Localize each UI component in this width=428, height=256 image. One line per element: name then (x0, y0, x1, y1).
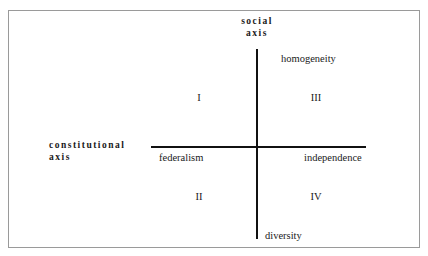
horizontal-axis-line (151, 146, 366, 148)
horizontal-axis-title: constitutional axis (49, 139, 125, 163)
horizontal-axis-title-line2: axis (49, 151, 125, 163)
horizontal-axis-positive-pole-label: independence (304, 152, 362, 163)
diagram-frame: social axis constitutional axis homogene… (8, 10, 420, 248)
quadrant-label-iii: III (306, 92, 326, 103)
vertical-axis-title: social axis (207, 15, 307, 39)
horizontal-axis-negative-pole-label: federalism (159, 152, 203, 163)
vertical-axis-line (256, 49, 258, 239)
horizontal-axis-title-line1: constitutional (49, 139, 125, 151)
vertical-axis-title-line2: axis (207, 27, 307, 39)
quadrant-label-i: I (189, 92, 209, 103)
vertical-axis-positive-pole-label: homogeneity (281, 53, 336, 64)
quadrant-label-ii: II (189, 191, 209, 202)
vertical-axis-negative-pole-label: diversity (265, 230, 302, 241)
vertical-axis-title-line1: social (207, 15, 307, 27)
quadrant-label-iv: IV (306, 191, 326, 202)
